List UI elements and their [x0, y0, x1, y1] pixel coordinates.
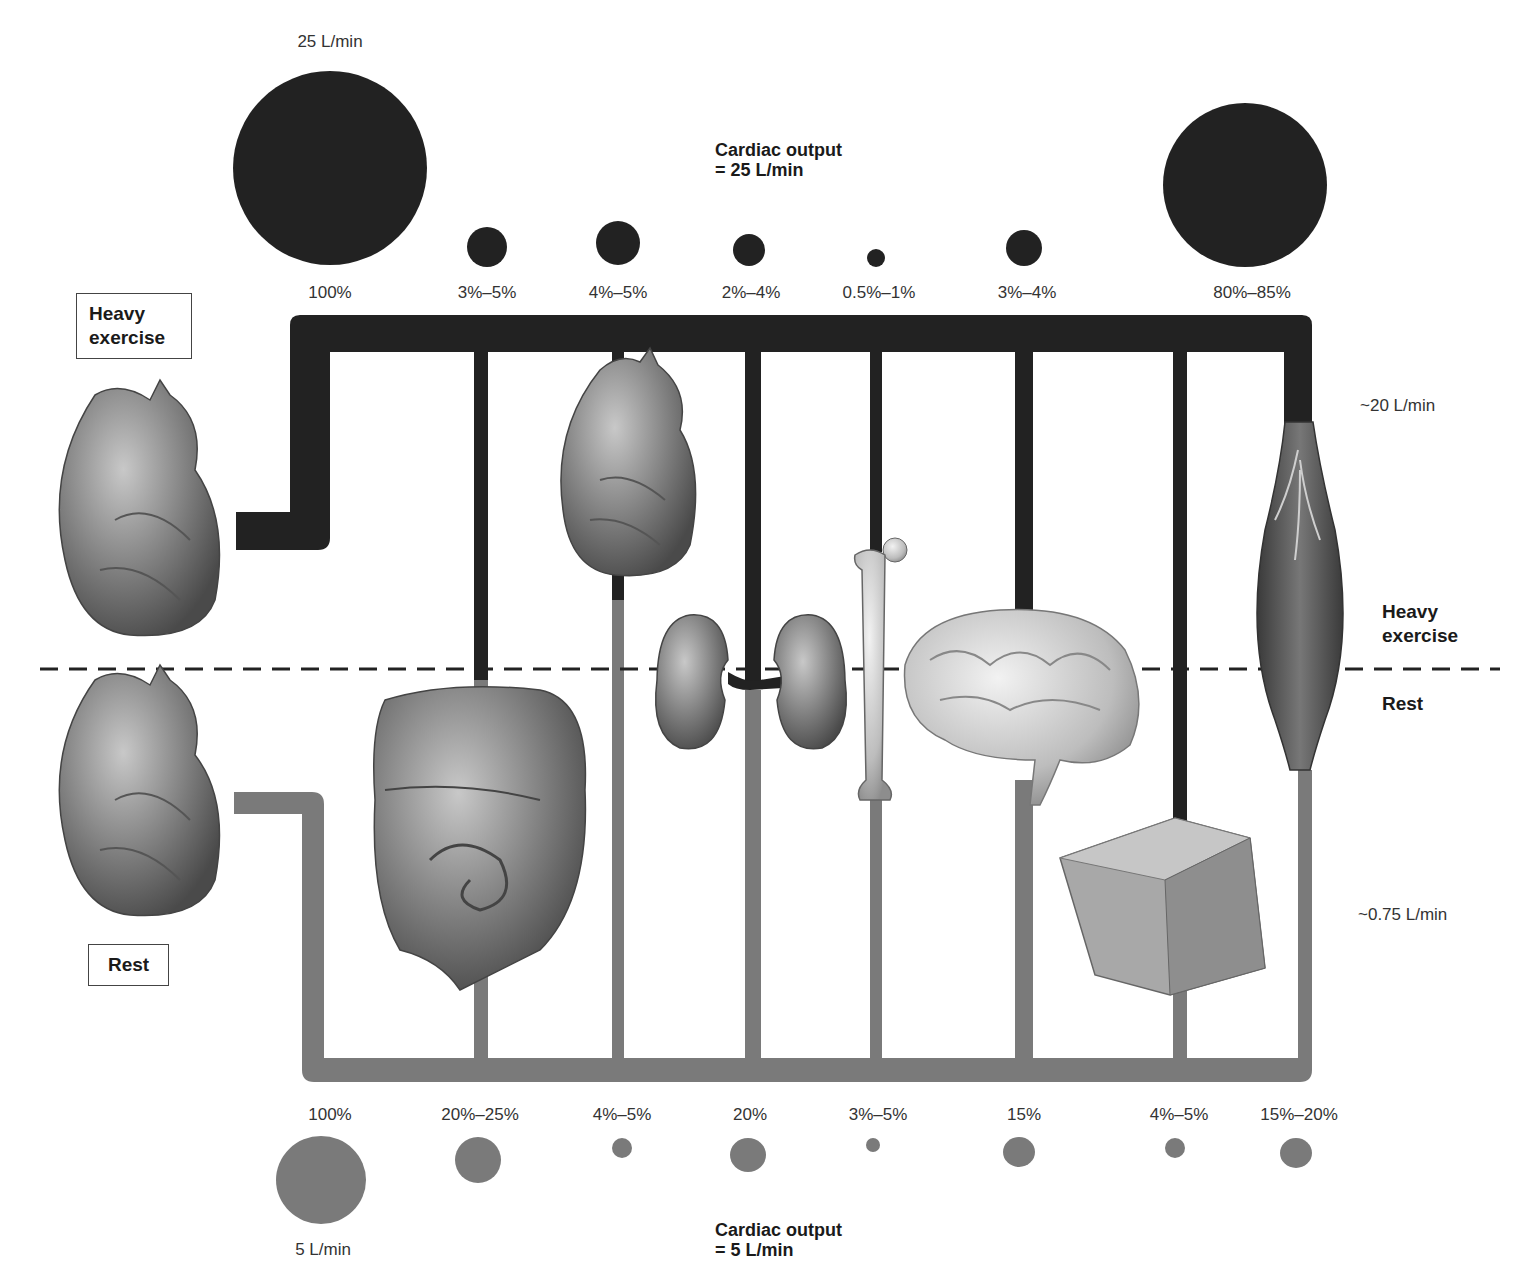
exercise-cardiac-output-label: Cardiac output: [715, 140, 842, 160]
rest-pct-skin: 4%–5%: [1150, 1105, 1209, 1125]
rest-box: Rest: [88, 944, 169, 986]
heart-icon-exercise: [59, 380, 219, 636]
rest-pct-muscle: 15%–20%: [1260, 1105, 1338, 1125]
rest-muscle-flow: ~0.75 L/min: [1358, 905, 1447, 925]
divider-exercise-label: Heavy exercise: [1382, 600, 1458, 648]
exercise-cardiac-output-title: Cardiac output = 25 L/min: [715, 140, 842, 180]
heart-icon-rest: [59, 665, 219, 916]
exercise-pct-heart: 4%–5%: [589, 283, 648, 303]
coronary-heart-icon: [561, 348, 696, 576]
divider-exercise-line2: exercise: [1382, 624, 1458, 648]
rest-flow-circles: [276, 1136, 1312, 1224]
rest-total-flow: 5 L/min: [295, 1240, 351, 1260]
rest-pct-total: 100%: [308, 1105, 351, 1125]
exercise-pct-kidneys: 2%–4%: [722, 283, 781, 303]
exercise-muscle-flow: ~20 L/min: [1360, 396, 1435, 416]
rest-pct-kidneys: 20%: [733, 1105, 767, 1125]
exercise-pct-muscle: 80%–85%: [1213, 283, 1291, 303]
brain-icon: [905, 610, 1139, 806]
divider-exercise-line1: Heavy: [1382, 600, 1458, 624]
rest-cardiac-output-value: = 5 L/min: [715, 1240, 842, 1260]
exercise-pct-total: 100%: [308, 283, 351, 303]
rest-pct-brain: 15%: [1007, 1105, 1041, 1125]
heavy-exercise-box-line2: exercise: [89, 326, 179, 350]
rest-pct-bone: 3%–5%: [849, 1105, 908, 1125]
exercise-total-flow: 25 L/min: [297, 32, 362, 52]
skeletal-muscle-icon: [1257, 422, 1343, 770]
rest-pct-digestive: 20%–25%: [441, 1105, 519, 1125]
heavy-exercise-box: Heavy exercise: [76, 293, 192, 359]
digestive-tract-icon: [374, 687, 586, 990]
rest-cardiac-output-label: Cardiac output: [715, 1220, 842, 1240]
exercise-pct-digestive: 3%–5%: [458, 283, 517, 303]
skin-block-icon: [1060, 818, 1265, 995]
circulation-diagram: [0, 0, 1529, 1281]
exercise-pct-brain: 3%–4%: [998, 283, 1057, 303]
exercise-cardiac-output-value: = 25 L/min: [715, 160, 842, 180]
exercise-pct-bone: 0.5%–1%: [843, 283, 916, 303]
heavy-exercise-box-line1: Heavy: [89, 302, 179, 326]
rest-pct-heart: 4%–5%: [593, 1105, 652, 1125]
rest-cardiac-output-title: Cardiac output = 5 L/min: [715, 1220, 842, 1260]
divider-rest-label: Rest: [1382, 692, 1423, 716]
